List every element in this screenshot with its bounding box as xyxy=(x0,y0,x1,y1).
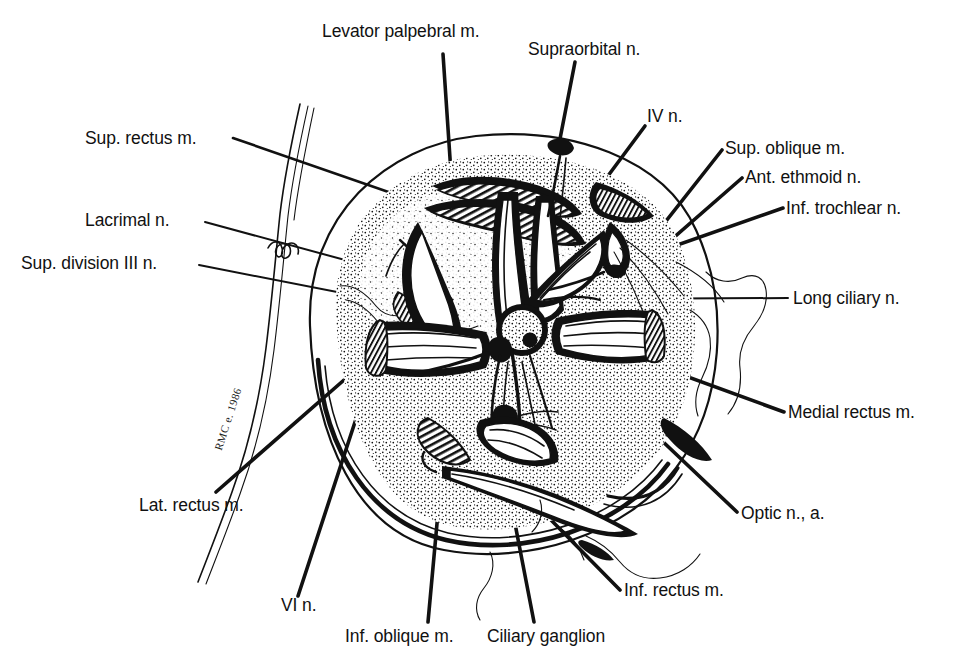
label-sup-oblique: Sup. oblique m. xyxy=(725,139,845,158)
label-optic: Optic n., a. xyxy=(741,504,824,523)
label-ant-ethmoid: Ant. ethmoid n. xyxy=(745,168,861,187)
left-vessel-squiggle xyxy=(268,242,298,258)
label-lat-rectus: Lat. rectus m. xyxy=(139,496,244,515)
orbit-body xyxy=(310,134,724,554)
label-lacrimal: Lacrimal n. xyxy=(85,211,170,230)
label-levator-palpebral: Levator palpebral m. xyxy=(322,22,480,41)
label-inf-oblique: Inf. oblique m. xyxy=(345,627,453,646)
central-retinal-artery xyxy=(523,333,538,348)
label-medial-rectus: Medial rectus m. xyxy=(788,403,915,422)
figure-canvas: Levator palpebral m. Supraorbital n. IV … xyxy=(0,0,953,663)
lateral-rectus-highlight xyxy=(379,329,483,370)
infraorbital-vessel-squiggle xyxy=(477,552,493,620)
label-vi-n: VI n. xyxy=(281,596,317,615)
medial-rectus-highlight xyxy=(559,317,654,358)
label-inf-rectus: Inf. rectus m. xyxy=(624,581,724,600)
label-iv-n: IV n. xyxy=(647,107,683,126)
leader-sup-rectus xyxy=(233,138,400,196)
label-sup-rectus: Sup. rectus m. xyxy=(85,129,196,148)
label-ciliary-ganglion: Ciliary ganglion xyxy=(487,627,605,646)
label-inf-trochlear: Inf. trochlear n. xyxy=(786,199,901,218)
leader-supraorbital xyxy=(559,62,575,144)
label-long-ciliary: Long ciliary n. xyxy=(793,289,899,308)
label-sup-division-iii: Sup. division III n. xyxy=(21,254,157,273)
orbital-apex-illustration xyxy=(0,0,953,663)
label-supraorbital: Supraorbital n. xyxy=(528,40,640,59)
